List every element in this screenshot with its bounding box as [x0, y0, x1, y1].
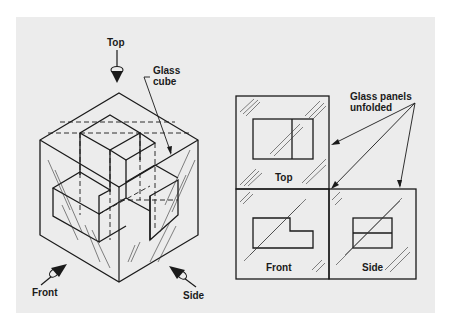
glass-box-projection-diagram [0, 0, 450, 327]
glass-cube-label-line1: Glass [153, 65, 180, 76]
glass-cube-label-line2: cube [153, 76, 180, 87]
glass-panels-callout-label: Glass panels unfolded [350, 91, 412, 113]
panel-top-label: Top [275, 172, 293, 183]
figure: Top Glass cube Front Side Glass panels u… [0, 0, 450, 327]
front-view-label: Front [32, 287, 58, 298]
top-view-label: Top [107, 37, 125, 48]
panel-front-label: Front [266, 262, 292, 273]
callout-line2: unfolded [350, 102, 412, 113]
side-view-label: Side [183, 290, 204, 301]
callout-line1: Glass panels [350, 91, 412, 102]
panel-side-label: Side [362, 262, 383, 273]
glass-cube-label: Glass cube [153, 65, 180, 87]
